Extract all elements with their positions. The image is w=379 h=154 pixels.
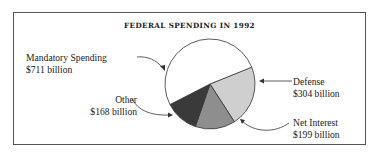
label-mandatory-name: Mandatory Spending bbox=[26, 52, 107, 64]
label-other: Other $168 billion bbox=[74, 94, 137, 117]
pie-slices bbox=[165, 39, 255, 129]
label-other-value: $168 billion bbox=[74, 106, 137, 118]
label-interest: Net Interest $199 billion bbox=[293, 117, 340, 140]
label-interest-value: $199 billion bbox=[293, 129, 340, 141]
label-defense-name: Defense bbox=[293, 76, 340, 88]
label-other-name: Other bbox=[74, 94, 137, 106]
label-interest-name: Net Interest bbox=[293, 117, 340, 129]
arrow-mandatory bbox=[137, 57, 163, 68]
arrow-interest bbox=[242, 121, 289, 130]
label-defense-value: $304 billion bbox=[293, 88, 340, 100]
label-mandatory: Mandatory Spending $711 billion bbox=[26, 52, 107, 75]
arrow-other bbox=[132, 99, 170, 115]
label-mandatory-value: $711 billion bbox=[26, 64, 107, 76]
label-defense: Defense $304 billion bbox=[293, 76, 340, 99]
